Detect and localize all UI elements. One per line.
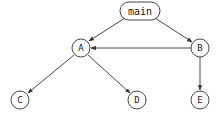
node-a: A (72, 39, 90, 57)
edge-a-to-d (88, 55, 130, 93)
node-e: E (191, 91, 209, 109)
node-a-label: A (78, 43, 84, 53)
node-main-label: main (128, 6, 152, 17)
node-b-label: B (197, 43, 202, 53)
edge-main-to-a (89, 18, 125, 41)
edge-a-to-c (28, 55, 74, 93)
edge-main-to-b (155, 18, 192, 42)
node-d-label: D (134, 95, 139, 105)
call-graph-diagram: main A B C D E (0, 0, 223, 116)
node-e-label: E (197, 95, 202, 105)
node-c: C (11, 91, 29, 109)
node-b: B (191, 39, 209, 57)
edges (28, 18, 200, 93)
node-c-label: C (17, 95, 22, 105)
node-d: D (128, 91, 146, 109)
node-main: main (120, 2, 160, 20)
